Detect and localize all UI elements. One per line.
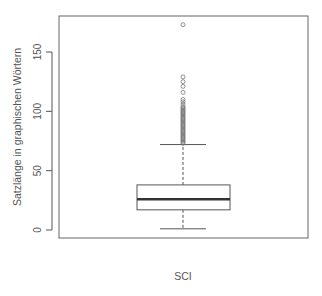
y-tick-label: 50 — [32, 165, 43, 177]
y-tick-label: 150 — [32, 43, 43, 60]
outlier-point — [181, 84, 185, 88]
y-axis: 050100150 — [32, 43, 52, 233]
outlier-point — [181, 75, 185, 79]
outlier-point — [181, 90, 185, 94]
y-tick-label: 0 — [32, 227, 43, 233]
x-axis-label: SCI — [174, 270, 192, 282]
boxplot-chart: 050100150 Satzlänge in graphischen Wörte… — [0, 0, 322, 296]
y-tick-label: 100 — [32, 103, 43, 120]
outlier-point — [181, 23, 185, 27]
box-plot-sci — [137, 23, 230, 229]
outlier-point — [181, 80, 185, 84]
y-axis-label: Satzlänge in graphischen Wörtern — [11, 48, 23, 206]
iqr-box — [137, 185, 230, 210]
